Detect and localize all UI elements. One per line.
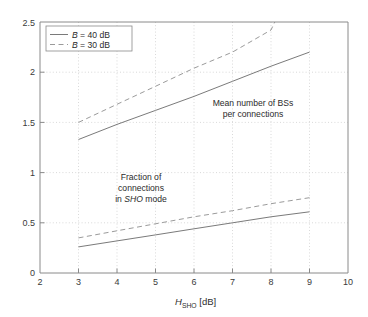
x-tick-label: 6 (191, 277, 196, 287)
x-axis-title: HSHO [dB] (175, 296, 216, 309)
y-tick-label: 1 (30, 168, 35, 178)
sho-fraction-annotation-line2: connections (118, 183, 164, 193)
y-tick-label: 0.5 (22, 218, 35, 228)
mean-bs-annotation: Mean number of BSs per connections (213, 98, 294, 119)
x-tick-labels: 2 3 4 5 6 7 8 9 10 (37, 277, 353, 287)
x-tick-label: 7 (230, 277, 235, 287)
sho-fraction-annotation: Fraction of connections in SHO mode (115, 172, 167, 204)
x-tick-label: 4 (114, 277, 119, 287)
sho-line3-italic: SHO (124, 194, 143, 204)
sho-line3-prefix: in (115, 194, 124, 204)
line-chart: 2 3 4 5 6 7 8 9 10 0 0.5 1 1.5 2 2.5 HSH… (0, 0, 368, 317)
x-tick-label: 3 (76, 277, 81, 287)
y-tick-label: 1.5 (22, 118, 35, 128)
x-tick-label: 8 (268, 277, 273, 287)
x-axis-title-subscript: SHO (182, 302, 197, 309)
legend-label-b40: B = 40 dB (72, 30, 110, 40)
sho-fraction-annotation-line1: Fraction of (121, 172, 162, 182)
y-tick-labels: 0 0.5 1 1.5 2 2.5 (22, 18, 35, 278)
sho-fraction-annotation-line3: in SHO mode (115, 194, 167, 204)
sho-line3-suffix: mode (143, 194, 167, 204)
legend-label-b30: B = 30 dB (72, 40, 110, 50)
mean-bs-annotation-line2: per connections (223, 109, 284, 119)
y-tick-label: 0 (30, 268, 35, 278)
x-tick-label: 10 (343, 277, 353, 287)
legend-label-b30-rest: = 30 dB (78, 40, 111, 50)
chart-figure: 2 3 4 5 6 7 8 9 10 0 0.5 1 1.5 2 2.5 HSH… (0, 0, 368, 317)
mean-bs-annotation-line1: Mean number of BSs (213, 98, 294, 108)
x-tick-label: 5 (153, 277, 158, 287)
x-axis-title-unit: [dB] (197, 296, 217, 307)
legend-label-b40-rest: = 40 dB (78, 30, 111, 40)
x-tick-label: 2 (37, 277, 42, 287)
x-tick-label: 9 (307, 277, 312, 287)
svg-text:HSHO [dB]: HSHO [dB] (175, 296, 216, 309)
y-tick-label: 2 (30, 67, 35, 77)
y-tick-label: 2.5 (22, 18, 35, 28)
legend[interactable]: B = 40 dB B = 30 dB (46, 26, 132, 51)
